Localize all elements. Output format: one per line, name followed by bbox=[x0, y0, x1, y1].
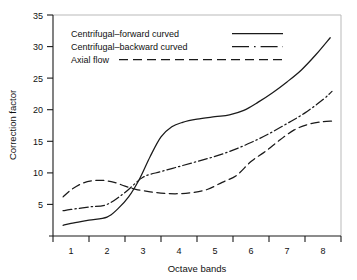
legend-label-1: Centrifugal–backward curved bbox=[71, 42, 188, 52]
x-tick-label: 4 bbox=[176, 246, 181, 256]
y-tick-label: 15 bbox=[33, 137, 43, 147]
x-tick-label: 2 bbox=[104, 246, 109, 256]
x-axis-ticks: 1 2 3 4 5 6 7 8 bbox=[53, 236, 341, 256]
x-tick-label: 6 bbox=[248, 246, 253, 256]
legend-label-2: Axial flow bbox=[71, 55, 110, 65]
y-tick-label: 10 bbox=[33, 168, 43, 178]
y-axis-title: Correction factor bbox=[7, 90, 18, 160]
y-tick-label: 20 bbox=[33, 105, 43, 115]
chart-figure: 35 30 25 20 15 10 5 1 2 bbox=[0, 0, 357, 280]
chart-legend: Centrifugal–forward curved Centrifugal–b… bbox=[71, 29, 283, 65]
x-tick-label: 8 bbox=[320, 246, 325, 256]
y-tick-label: 35 bbox=[33, 11, 43, 21]
x-tick-label: 3 bbox=[140, 246, 145, 256]
y-tick-label: 30 bbox=[33, 42, 43, 52]
x-tick-label: 1 bbox=[68, 246, 73, 256]
x-tick-label: 5 bbox=[212, 246, 217, 256]
series-line-centrifugal-forward-curved bbox=[63, 38, 330, 226]
y-tick-label: 25 bbox=[33, 74, 43, 84]
y-axis-ticks: 35 30 25 20 15 10 5 bbox=[33, 11, 53, 210]
x-tick-label: 7 bbox=[284, 246, 289, 256]
y-tick-label: 5 bbox=[38, 200, 43, 210]
legend-label-0: Centrifugal–forward curved bbox=[71, 29, 179, 39]
series-line-axial-flow bbox=[63, 121, 332, 197]
series-line-centrifugal-backward-curved bbox=[63, 91, 332, 210]
chart-plot-area: 35 30 25 20 15 10 5 1 2 bbox=[0, 0, 357, 280]
x-axis-title: Octave bands bbox=[168, 263, 227, 274]
